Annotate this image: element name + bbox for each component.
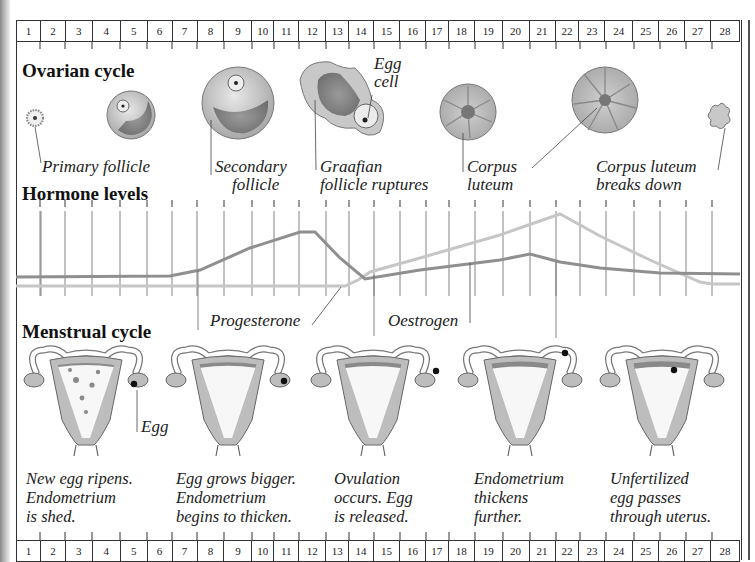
uterus-icon <box>458 349 582 456</box>
oestrogen-curve <box>16 232 740 279</box>
egg-dot <box>562 350 568 356</box>
corpus-luteum-label: Corpus luteum <box>467 158 517 194</box>
uterus-icon <box>600 349 724 456</box>
early-follicle-icon <box>107 91 155 139</box>
primary-follicle-icon <box>27 110 43 126</box>
egg-dot <box>131 381 137 387</box>
corpus-breaks-down-pointer <box>718 128 725 170</box>
corpus-luteum-large-pointer <box>532 108 597 168</box>
corpus-luteum-icon <box>440 84 496 140</box>
corpus-luteum-degenerating-icon <box>708 103 730 128</box>
caption-days-13-15: Ovulation occurs. Egg is released. <box>334 469 413 526</box>
egg-dot <box>281 378 287 384</box>
graafian-follicle-label: Graafian follicle ruptures <box>320 158 428 194</box>
uterus-icon <box>311 349 439 456</box>
progesterone-pointer <box>312 287 341 325</box>
progesterone-label: Progesterone <box>210 312 300 330</box>
primary-follicle-label: Primary follicle <box>42 158 150 176</box>
uterus-icon <box>166 349 290 456</box>
egg-dot <box>433 368 439 374</box>
oestrogen-label: Oestrogen <box>388 312 458 330</box>
day-ticks-top <box>40 42 712 49</box>
egg-cell-label: Egg cell <box>374 55 401 91</box>
secondary-follicle-label: Secondary follicle <box>215 158 287 194</box>
uterus-icon <box>24 349 148 456</box>
secondary-follicle-icon <box>202 67 274 139</box>
corpus-luteum-breaks-down-label: Corpus luteum breaks down <box>596 158 697 194</box>
caption-days-18-22: Endometrium thickens further. <box>474 469 564 526</box>
caption-days-7-12: Egg grows bigger. Endometrium begins to … <box>176 469 296 526</box>
primary-follicle-pointer <box>35 127 41 163</box>
uterus-diagrams <box>24 349 724 456</box>
caption-days-23-28: Unfertilized egg passes through uterus. <box>610 469 711 526</box>
caption-days-1-6: New egg ripens. Endometrium is shed. <box>26 469 133 526</box>
corpus-luteum-large-icon <box>572 67 638 133</box>
hormone-grid-lines <box>40 211 712 296</box>
egg-label: Egg <box>141 418 168 436</box>
egg-dot <box>671 367 677 373</box>
